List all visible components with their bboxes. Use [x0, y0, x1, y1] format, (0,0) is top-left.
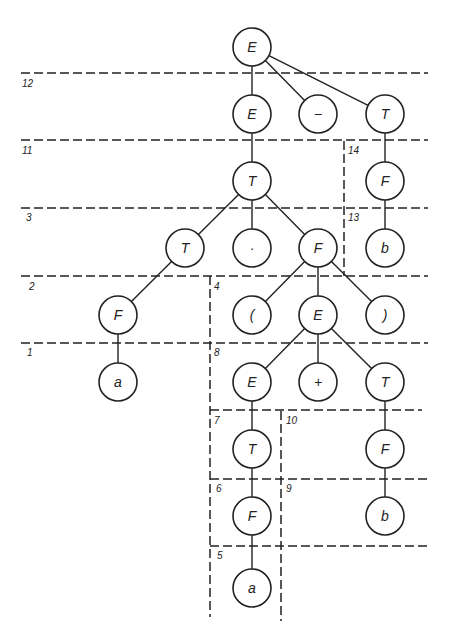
node-label: F	[381, 173, 391, 189]
tree-node: a	[99, 363, 137, 401]
node-label: a	[248, 580, 256, 596]
node-label: T	[248, 173, 258, 189]
tree-node: +	[299, 363, 337, 401]
zone-number-label: 9	[286, 483, 292, 494]
tree-node: a	[233, 569, 271, 607]
tree-edge	[265, 61, 304, 101]
parse-tree-diagram: EE−TTFT·FbF(E)aE+TTFFba	[0, 0, 451, 641]
tree-node: F	[233, 497, 271, 535]
node-label: E	[247, 106, 257, 122]
node-label: T	[381, 374, 391, 390]
tree-edge	[198, 194, 238, 234]
node-label: T	[381, 106, 391, 122]
node-label: +	[314, 374, 322, 390]
tree-node: E	[299, 296, 337, 334]
zone-number-label: 2	[29, 281, 35, 292]
node-label: E	[247, 374, 257, 390]
tree-edge	[265, 329, 304, 369]
tree-edge	[331, 261, 371, 301]
tree-node: E	[233, 28, 271, 66]
zone-number-label: 14	[348, 145, 359, 156]
zone-number-label: 5	[217, 550, 223, 561]
zone-number-label: 6	[216, 483, 222, 494]
zone-number-label: 12	[22, 78, 33, 89]
tree-nodes: EE−TTFT·FbF(E)aE+TTFFba	[99, 28, 404, 607]
node-label: −	[314, 106, 322, 122]
node-label: E	[247, 39, 257, 55]
zone-number-label: 8	[214, 347, 220, 358]
tree-node: F	[366, 162, 404, 200]
zone-number-label: 13	[348, 212, 359, 223]
tree-node: (	[233, 296, 271, 334]
node-label: T	[181, 240, 191, 256]
tree-edge	[265, 262, 304, 302]
tree-node: ·	[233, 229, 271, 267]
tree-node: −	[299, 95, 337, 133]
tree-node: F	[366, 430, 404, 468]
zone-number-label: 4	[214, 281, 220, 292]
zone-number-label: 1	[27, 347, 33, 358]
tree-node: E	[233, 95, 271, 133]
zone-dividers	[21, 73, 428, 621]
node-label: a	[114, 374, 122, 390]
tree-node: T	[233, 430, 271, 468]
node-label: ·	[250, 240, 255, 256]
node-label: F	[114, 307, 124, 323]
tree-node: )	[366, 296, 404, 334]
tree-edge	[265, 195, 304, 235]
node-label: F	[248, 508, 258, 524]
zone-number-label: 11	[22, 145, 32, 156]
tree-edge	[331, 328, 371, 368]
tree-node: b	[366, 229, 404, 267]
node-label: E	[313, 307, 323, 323]
zone-number-label: 7	[214, 415, 220, 426]
tree-node: b	[366, 497, 404, 535]
tree-node: F	[99, 296, 137, 334]
node-label: b	[381, 240, 389, 256]
node-label: b	[381, 508, 389, 524]
tree-node: T	[233, 162, 271, 200]
tree-edge	[131, 261, 171, 301]
tree-node: T	[366, 95, 404, 133]
node-label: T	[248, 441, 258, 457]
tree-node: T	[366, 363, 404, 401]
node-label: F	[314, 240, 324, 256]
zone-number-label: 3	[26, 212, 32, 223]
node-label: F	[381, 441, 391, 457]
tree-node: F	[299, 229, 337, 267]
zone-number-label: 10	[286, 415, 297, 426]
tree-node: T	[166, 229, 204, 267]
tree-node: E	[233, 363, 271, 401]
